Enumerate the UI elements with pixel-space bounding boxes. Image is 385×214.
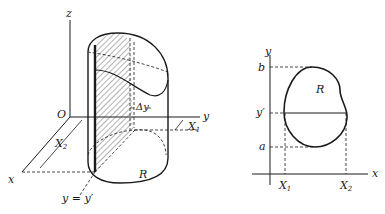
y-prime-label: y′	[255, 106, 265, 119]
figure-2d-region: y x b y′ a R X1 X2	[252, 45, 379, 193]
figure-3d-solid: z O y x X2 X1 Δy	[8, 7, 210, 205]
delta-y-label: Δy	[135, 101, 149, 112]
diagram-canvas: z O y x X2 X1 Δy	[0, 0, 385, 214]
x2-label-2d: X2	[339, 179, 353, 193]
b-label: b	[258, 61, 265, 74]
x1-label-2d: X1	[278, 179, 291, 193]
origin-label: O	[57, 108, 66, 121]
x1-label: X1	[187, 120, 200, 134]
shaded-slice	[95, 33, 133, 172]
z-axis-label: z	[65, 7, 72, 20]
slice-label: y = y′	[61, 192, 94, 205]
region-label-3d: R	[138, 168, 147, 181]
a-label: a	[259, 140, 266, 153]
x-axis-label: x	[8, 173, 15, 186]
y-axis-label-2d: y	[264, 45, 272, 58]
region-label-2d: R	[315, 83, 324, 96]
y-axis-label: y	[202, 110, 210, 123]
x-axis-label-2d: x	[372, 167, 379, 180]
region-r-outline	[284, 67, 347, 147]
x1-dimension	[175, 120, 183, 130]
